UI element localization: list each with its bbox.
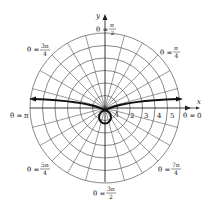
svg-text:3π: 3π: [41, 42, 49, 49]
grid-ray-120deg: [68, 43, 106, 108]
svg-text:4: 4: [175, 52, 179, 59]
radial-tick-2: 2: [130, 112, 134, 120]
svg-text:4: 4: [43, 50, 47, 57]
angle-label-pi-over-2: θ = π 2: [96, 21, 116, 36]
svg-text:θ =: θ =: [93, 190, 105, 198]
y-axis-label: y: [95, 12, 101, 20]
angle-label-0: θ = 0: [183, 112, 201, 120]
x-axis-label: x: [197, 98, 201, 106]
svg-text:θ =: θ =: [158, 166, 170, 174]
angle-label-3pi-over-2: θ = 3π 2: [93, 185, 116, 200]
y-axis-arrow-icon: [103, 14, 108, 20]
svg-text:2: 2: [111, 29, 115, 36]
svg-text:θ =: θ =: [27, 46, 39, 54]
grid-ray-225deg: [52, 108, 105, 161]
theta-zero-arrow-icon: [196, 107, 200, 110]
radial-tick-4: 4: [157, 112, 162, 120]
svg-text:π: π: [110, 21, 114, 28]
svg-text:π: π: [174, 44, 178, 51]
svg-text:7π: 7π: [172, 161, 180, 168]
radial-tick-1: 1: [115, 111, 119, 119]
svg-text:π: π: [24, 112, 29, 120]
grid-ray-210deg: [40, 108, 105, 146]
svg-text:θ =: θ =: [27, 166, 39, 174]
svg-text:4: 4: [174, 169, 178, 176]
angle-label-3pi-over-4: θ = 3π 4: [27, 42, 50, 57]
svg-text:2: 2: [109, 193, 113, 200]
svg-text:θ =: θ =: [10, 112, 22, 120]
angle-label-5pi-over-4: θ = 5π 4: [27, 161, 50, 176]
radial-tick-5: 5: [170, 112, 174, 120]
svg-text:0: 0: [197, 112, 201, 120]
radial-tick-3: 3: [144, 112, 148, 120]
svg-text:3π: 3π: [107, 185, 115, 192]
polar-diagram: y x 1 2 3 4 5 θ = π 2 θ = 3π 4 θ = π 4 θ…: [0, 0, 212, 216]
svg-text:5π: 5π: [41, 161, 49, 168]
svg-text:θ =: θ =: [96, 26, 108, 34]
grid-ray-60deg: [105, 43, 143, 108]
svg-text:θ =: θ =: [160, 49, 172, 57]
svg-text:4: 4: [43, 169, 47, 176]
angle-label-pi-over-4: θ = π 4: [160, 44, 180, 59]
angle-label-pi: θ = π: [10, 112, 29, 120]
angle-label-7pi-over-4: θ = 7π 4: [158, 161, 181, 176]
svg-text:θ =: θ =: [183, 112, 195, 120]
